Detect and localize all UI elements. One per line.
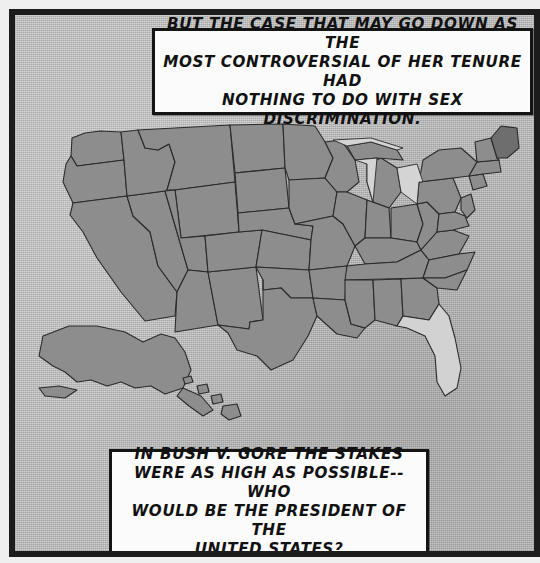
state-new-jersey [461,194,475,218]
state-hawaii-kauai [183,376,193,384]
comic-scan-page: But the case that may go down as the mos… [0,0,540,563]
state-minnesota [283,124,333,180]
state-connecticut-rhode-island [469,174,487,190]
state-arkansas [309,266,347,300]
united-states-map [25,120,530,450]
top-caption-box: But the case that may go down as the mos… [152,28,533,115]
bottom-caption-text: In Bush v. Gore the stakes were as high … [120,445,418,558]
state-north-dakota [230,124,285,173]
state-alabama [373,279,403,326]
top-caption-text: But the case that may go down as the mos… [163,15,522,129]
state-wyoming [175,182,239,238]
comic-panel: But the case that may go down as the mos… [9,9,540,557]
state-hawaii-oahu [197,384,209,394]
state-new-york [419,148,477,182]
state-maine [491,126,519,158]
bottom-caption-box: In Bush v. Gore the stakes were as high … [109,449,429,554]
state-hawaii-maui [211,394,223,404]
state-alaska [39,326,191,394]
state-colorado [205,230,262,272]
state-hawaii-big-island [221,404,241,420]
state-alaska-aleutians [39,386,77,398]
state-south-dakota [235,168,289,213]
